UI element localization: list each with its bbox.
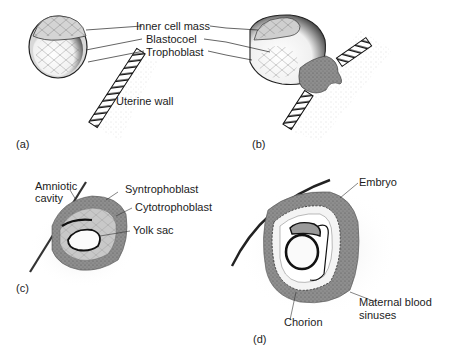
label-inner-cell-mass: Inner cell mass (136, 20, 210, 32)
label-amniotic: Amniotic (35, 180, 77, 192)
label-chorion: Chorion (284, 316, 323, 328)
label-blastocoel: Blastocoel (146, 33, 197, 45)
panel-d-tag: (d) (253, 333, 266, 345)
panel-c-tag: (c) (16, 282, 29, 294)
panel-a-tag: (a) (16, 138, 29, 150)
label-cytotrophoblast: Cytotrophoblast (135, 201, 212, 213)
panel-b-illustration (226, 15, 392, 142)
label-maternal-blood: Maternal blood (359, 296, 432, 308)
label-embryo: Embryo (359, 176, 397, 188)
label-sinuses: sinuses (359, 309, 396, 321)
label-trophoblast: Trophoblast (146, 46, 204, 58)
label-cavity: cavity (35, 192, 63, 204)
label-yolk-sac: Yolk sac (133, 224, 174, 236)
panel-b-tag: (b) (252, 138, 265, 150)
label-uterine-wall: Uterine wall (116, 95, 173, 107)
implantation-diagram: Inner cell mass Blastocoel Trophoblast U… (0, 0, 449, 348)
label-syntrophoblast: Syntrophoblast (125, 183, 198, 195)
